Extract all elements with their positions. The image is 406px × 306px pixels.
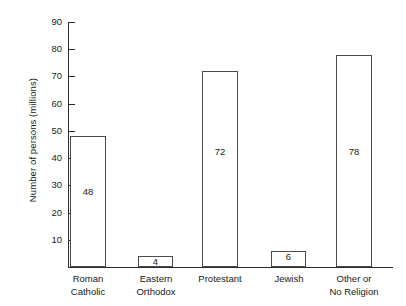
x-category-label-line1: Jewish (274, 273, 303, 284)
bar-value-jewish: 6 (271, 251, 306, 262)
y-tick-label-40: 40 (40, 153, 62, 163)
y-tick-label-30: 30 (40, 180, 62, 190)
y-tick-label-90: 90 (40, 17, 62, 27)
y-tick-label-60: 60 (40, 99, 62, 109)
chart-figure: Number of persons (millions) 90 80 70 60… (0, 0, 406, 306)
x-axis-line (68, 267, 393, 268)
bar-value-roman-catholic: 48 (70, 186, 106, 197)
plot-area: 90 80 70 60 50 40 30 20 10 48 4 72 6 78 … (0, 0, 406, 306)
bar-other-or-no-religion (336, 55, 372, 267)
y-tick-mark-50 (68, 131, 75, 132)
x-category-label-line1: Other or (337, 273, 372, 284)
y-tick-label-70: 70 (40, 71, 62, 81)
bar-value-other-or-no-religion: 78 (336, 146, 372, 157)
x-category-label-other-or-no-religion: Other or No Religion (310, 272, 398, 298)
x-category-label-line1: Protestant (198, 273, 241, 284)
y-tick-label-80: 80 (40, 44, 62, 54)
y-tick-label-10: 10 (40, 235, 62, 245)
y-axis-line (68, 22, 69, 267)
y-tick-mark-80 (68, 49, 75, 50)
x-category-label-line2: No Religion (310, 285, 398, 298)
bar-value-eastern-orthodox: 4 (138, 256, 173, 267)
x-category-label-line1: Eastern (140, 273, 173, 284)
y-tick-mark-60 (68, 104, 75, 105)
y-tick-mark-70 (68, 76, 75, 77)
x-category-label-line2: Orthodox (115, 285, 197, 298)
y-tick-mark-90 (68, 22, 75, 23)
bar-value-protestant: 72 (202, 146, 238, 157)
bar-roman-catholic (70, 136, 106, 267)
bar-protestant (202, 71, 238, 267)
x-category-label-protestant: Protestant (180, 272, 260, 285)
y-tick-label-20: 20 (40, 208, 62, 218)
x-category-label-line1: Roman (73, 273, 104, 284)
y-tick-label-50: 50 (40, 126, 62, 136)
